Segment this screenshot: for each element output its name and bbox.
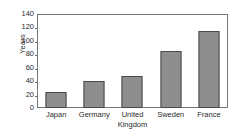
- bar-slot: [37, 14, 75, 108]
- x-axis-tick-labels: JapanGermanyUnited KingdomSwedenFrance: [37, 110, 228, 138]
- bar: [46, 92, 67, 108]
- bar-slot: [152, 14, 190, 108]
- x-tick-label: France: [190, 110, 228, 120]
- bar: [198, 31, 219, 108]
- bar-slot: [190, 14, 228, 108]
- y-tick-label: 20: [12, 91, 34, 99]
- bars-layer: [37, 14, 228, 108]
- y-axis-tick-labels: 020406080100120140: [12, 10, 34, 108]
- y-tick-label: 120: [12, 23, 34, 31]
- x-tick-label: Japan: [37, 110, 75, 120]
- x-tick-label: Germany: [75, 110, 113, 120]
- bar-slot: [113, 14, 151, 108]
- y-tick-label: 140: [12, 10, 34, 18]
- y-tick-label: 40: [12, 77, 34, 85]
- bar: [84, 81, 105, 108]
- bar-slot: [75, 14, 113, 108]
- y-tick-label: 60: [12, 64, 34, 72]
- y-tick-label: 80: [12, 50, 34, 58]
- y-tick-label: 100: [12, 37, 34, 45]
- bar: [122, 76, 143, 108]
- y-tick-label: 0: [12, 104, 34, 112]
- bar-chart: Years 020406080100120140 JapanGermanyUni…: [0, 0, 238, 139]
- x-tick-label: Sweden: [152, 110, 190, 120]
- x-tick-label: United Kingdom: [113, 110, 151, 129]
- bar: [160, 51, 181, 108]
